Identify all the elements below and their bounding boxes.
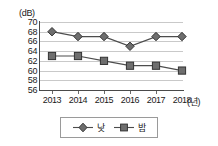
square-marker-icon [152, 62, 159, 69]
diamond-marker-icon [126, 42, 134, 50]
square-marker-icon [48, 52, 55, 59]
diamond-marker-icon [152, 32, 160, 40]
square-marker-icon [100, 57, 107, 64]
square-marker-icon [74, 52, 81, 59]
chart-legend: 낮 밤 [60, 117, 158, 138]
diamond-marker-icon [74, 32, 82, 40]
diamond-marker-icon [100, 32, 108, 40]
legend-label-day: 낮 [97, 123, 105, 133]
square-marker-icon [126, 62, 133, 69]
series-line [52, 32, 182, 47]
diamond-marker-icon [48, 28, 56, 36]
series-night [48, 52, 185, 74]
noise-level-line-chart: (dB) (년) 70 68 66 64 62 60 58 56 2013 20… [0, 0, 218, 146]
diamond-marker-icon [73, 122, 93, 133]
legend-entry-day: 낮 [73, 122, 105, 133]
legend-entry-night: 밤 [114, 122, 146, 133]
series-day [48, 28, 186, 51]
square-marker-icon [178, 67, 185, 74]
legend-label-night: 밤 [138, 123, 146, 133]
square-marker-icon [114, 122, 134, 133]
diamond-marker-icon [178, 32, 186, 40]
series-line [52, 56, 182, 71]
